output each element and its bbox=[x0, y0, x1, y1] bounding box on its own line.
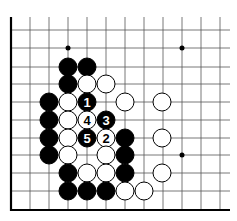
star-point bbox=[180, 46, 185, 51]
white-stone bbox=[97, 146, 115, 164]
go-board: 14352 bbox=[0, 0, 237, 221]
white-stone bbox=[116, 93, 134, 111]
star-point bbox=[180, 153, 185, 158]
move-number: 3 bbox=[102, 113, 109, 128]
white-stone bbox=[97, 164, 115, 182]
move-number: 1 bbox=[83, 95, 90, 110]
white-stone bbox=[78, 164, 96, 182]
black-stone bbox=[40, 111, 58, 129]
white-stone bbox=[59, 129, 77, 147]
black-stone bbox=[59, 182, 77, 200]
black-stone bbox=[40, 129, 58, 147]
white-stone bbox=[116, 182, 134, 200]
star-point bbox=[66, 46, 71, 51]
move-number: 5 bbox=[83, 131, 90, 146]
black-stone bbox=[40, 146, 58, 164]
white-stone bbox=[78, 75, 96, 93]
black-stone bbox=[40, 93, 58, 111]
white-stone bbox=[153, 129, 171, 147]
white-stone bbox=[153, 93, 171, 111]
white-stone bbox=[153, 164, 171, 182]
black-stone bbox=[59, 58, 77, 76]
black-stone bbox=[59, 75, 77, 93]
move-number: 4 bbox=[83, 113, 91, 128]
black-stone bbox=[59, 164, 77, 182]
black-stone bbox=[78, 182, 96, 200]
white-stone bbox=[59, 111, 77, 129]
white-stone bbox=[97, 75, 115, 93]
black-stone bbox=[78, 58, 96, 76]
black-stone bbox=[116, 164, 134, 182]
white-stone bbox=[135, 182, 153, 200]
black-stone bbox=[116, 146, 134, 164]
black-stone bbox=[97, 182, 115, 200]
white-stone bbox=[59, 146, 77, 164]
move-number: 2 bbox=[102, 131, 109, 146]
white-stone bbox=[59, 93, 77, 111]
black-stone bbox=[116, 129, 134, 147]
